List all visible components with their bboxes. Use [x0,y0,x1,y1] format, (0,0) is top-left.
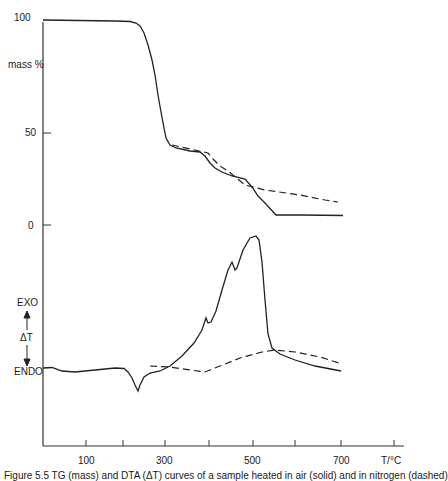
dta-solid-curve [43,236,341,391]
y-label-0: 0 [28,220,34,231]
x-label-700: 700 [333,455,350,466]
exo-label: EXO [17,297,38,308]
x-label-300: 300 [156,455,173,466]
delta-t-label: ΔT [20,332,33,343]
tg-solid-curve [43,20,343,216]
x-label-500: 500 [244,455,261,466]
endo-label: ENDO [14,366,43,377]
y-label-100: 100 [14,12,31,23]
tg-dashed-curve [172,145,338,202]
x-axis-unit: T/°C [381,455,401,466]
y-label-50: 50 [25,127,36,138]
dta-dashed-curve [150,350,342,372]
x-ticks [86,440,394,446]
figure-caption: Figure 5.5 TG (mass) and DTA (ΔT) curves… [4,470,448,481]
x-label-100: 100 [78,455,95,466]
y-axis-title: mass % [8,59,44,70]
